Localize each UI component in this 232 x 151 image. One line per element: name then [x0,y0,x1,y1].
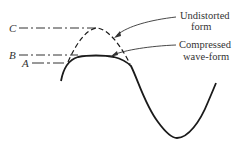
level-a-label: A [21,57,29,69]
waveform-diagram: C B A Undistorted form Compressed wave-f… [0,0,232,151]
level-b-label: B [9,49,16,61]
compressed-label-line2: wave-form [183,51,229,62]
undistorted-label-line2: form [191,21,211,32]
undistorted-leader-line [117,17,176,35]
undistorted-arrowhead-icon [114,31,121,38]
level-c-label: C [9,22,17,34]
undistorted-label-line1: Undistorted [180,10,230,21]
compressed-waveform [61,56,216,139]
compressed-label-line1: Compressed [179,39,232,50]
